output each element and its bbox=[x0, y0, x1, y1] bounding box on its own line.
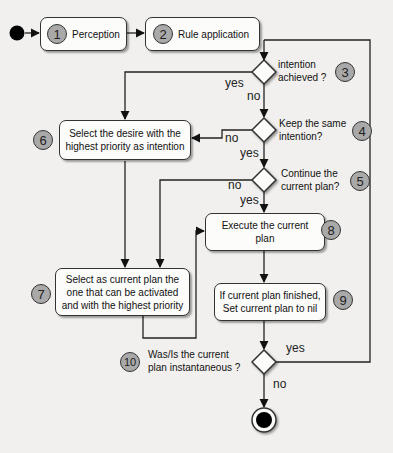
step-number-badge-7: 7 bbox=[31, 284, 51, 304]
step-number-badge-10: 10 bbox=[120, 352, 140, 372]
edge-label-yes-3: yes bbox=[225, 76, 244, 90]
step-number-badge-3: 3 bbox=[335, 62, 355, 82]
node-label-line1: Select the desire with the bbox=[66, 127, 185, 140]
edge-label-yes-4: yes bbox=[240, 146, 259, 160]
decision-label-3: intention achieved ? bbox=[278, 58, 326, 84]
node-label: Perception bbox=[72, 28, 120, 41]
step-number-badge-6: 6 bbox=[33, 130, 53, 150]
start-node bbox=[10, 26, 25, 41]
node-label-line2: plan bbox=[222, 232, 309, 245]
edge-label-no-3: no bbox=[247, 89, 260, 103]
action-node-finish-plan: If current plan finished, Set current pl… bbox=[214, 283, 326, 321]
action-node-select-desire: Select the desire with the highest prior… bbox=[59, 120, 191, 160]
decision-diamond-10 bbox=[252, 350, 276, 374]
node-label-line2: one that can be activated bbox=[62, 286, 184, 299]
action-node-perception: 1 Perception bbox=[40, 17, 127, 51]
action-node-select-plan: Select as current plan the one that can … bbox=[55, 268, 190, 316]
node-label-line3: and with the highest priority bbox=[62, 299, 184, 312]
decision-diamond-4 bbox=[252, 118, 276, 142]
end-node bbox=[252, 408, 276, 432]
node-label-line2: highest priority as intention bbox=[66, 140, 185, 153]
step-number-badge: 2 bbox=[153, 24, 173, 44]
node-label-line1: Select as current plan the bbox=[62, 273, 184, 286]
decision-diamond-3 bbox=[252, 60, 276, 84]
decision-label-5: Continue the current plan? bbox=[281, 167, 339, 193]
edge-label-yes-5: yes bbox=[240, 193, 259, 207]
step-number-badge-4: 4 bbox=[352, 121, 372, 141]
node-label: Rule application bbox=[178, 28, 249, 41]
edge-label-no-4: no bbox=[225, 131, 238, 145]
action-node-execute-plan: Execute the current plan bbox=[205, 213, 325, 251]
decision-label-10: Was/Is the current plan instantaneous ? bbox=[148, 348, 240, 374]
action-node-rule-application: 2 Rule application bbox=[145, 17, 260, 51]
step-number-badge: 1 bbox=[47, 24, 67, 44]
step-number-badge-9: 9 bbox=[333, 290, 353, 310]
step-number-badge-5: 5 bbox=[350, 171, 370, 191]
node-label-line1: Execute the current bbox=[222, 219, 309, 232]
edge-label-no-5: no bbox=[228, 178, 241, 192]
decision-diamond-5 bbox=[252, 168, 276, 192]
node-label-line2: Set current plan to nil bbox=[219, 302, 320, 315]
edge-label-yes-10: yes bbox=[286, 341, 305, 355]
step-number-badge-8: 8 bbox=[321, 220, 341, 240]
node-label-line1: If current plan finished, bbox=[219, 289, 320, 302]
edge-label-no-10: no bbox=[273, 377, 286, 391]
decision-label-4: Keep the same intention? bbox=[279, 117, 346, 143]
